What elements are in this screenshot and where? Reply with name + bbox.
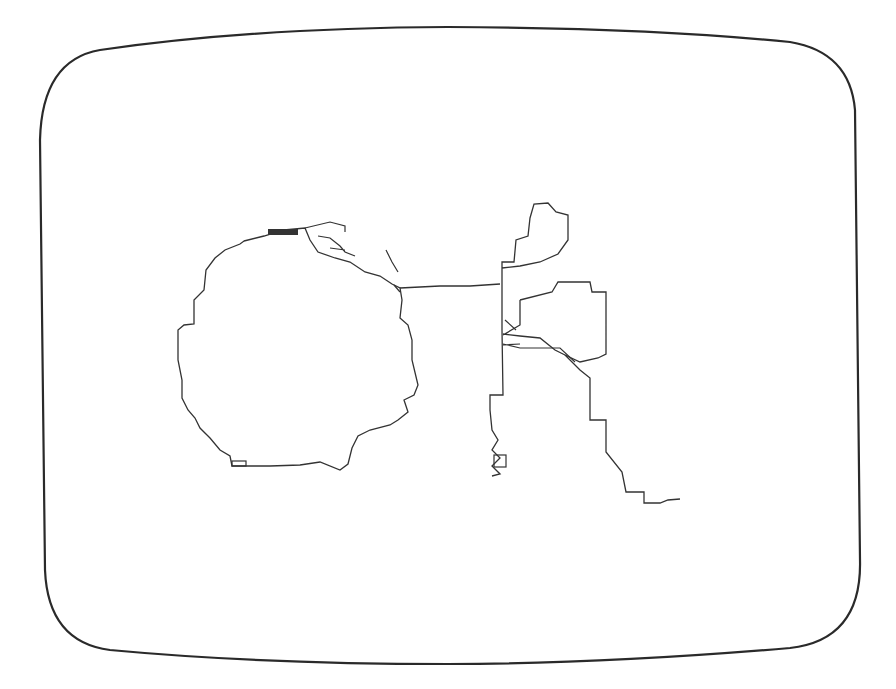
vertical-post [490, 280, 503, 476]
frame-box [503, 282, 606, 362]
post-mark [494, 455, 506, 467]
wheel-dark-mark [268, 229, 298, 235]
handlebar-outline [502, 203, 568, 280]
crossbar [400, 284, 500, 288]
rear-leg [565, 355, 680, 503]
wheel-inner-lines [305, 222, 400, 292]
screen-drawing [0, 0, 896, 689]
wheel-bottom-mark [232, 461, 246, 466]
screen-frame [40, 27, 860, 664]
wheel-outline [178, 228, 418, 470]
frame-lower [503, 320, 575, 362]
crt-screen [0, 0, 896, 689]
